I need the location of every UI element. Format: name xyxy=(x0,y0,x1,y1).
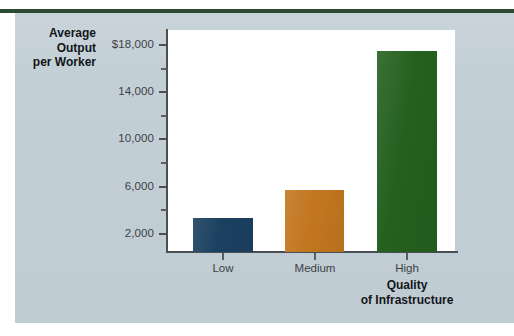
x-category-label-low: Low xyxy=(183,262,263,274)
y-axis-title-line-2: Output xyxy=(18,41,96,56)
bar-high xyxy=(377,51,437,252)
y-tick-label-group: $18,000 14,000 10,000 6,000 2,000 xyxy=(96,0,154,336)
y-axis-title: Average Output per Worker xyxy=(18,26,96,70)
y-tick-label-18000: $18,000 xyxy=(96,38,154,50)
y-tick-10000 xyxy=(159,138,167,140)
y-axis-title-line-3: per Worker xyxy=(18,55,96,70)
bar-low-shading xyxy=(193,218,253,252)
x-axis-title: Quality of Infrastructure xyxy=(327,278,487,307)
x-category-label-high: High xyxy=(367,262,447,274)
y-tick-label-14000: 14,000 xyxy=(96,85,154,97)
y-minor-tick-12000 xyxy=(161,115,167,117)
chart-figure: Average Output per Worker $18,000 14,000… xyxy=(0,0,514,336)
y-minor-tick-4000 xyxy=(161,209,167,211)
bar-medium-shading xyxy=(285,190,344,252)
y-tick-18000 xyxy=(159,44,167,46)
x-axis-title-line-1: Quality xyxy=(327,278,487,293)
x-category-label-medium: Medium xyxy=(275,262,355,274)
x-axis-title-line-2: of Infrastructure xyxy=(327,293,487,308)
y-tick-label-10000: 10,000 xyxy=(96,132,154,144)
y-tick-label-2000: 2,000 xyxy=(96,227,154,239)
y-minor-tick-8000 xyxy=(161,162,167,164)
x-tick-low xyxy=(222,253,224,260)
y-tick-label-6000: 6,000 xyxy=(96,180,154,192)
y-axis-title-line-1: Average xyxy=(18,26,96,41)
bar-high-shading xyxy=(377,51,437,252)
x-tick-medium xyxy=(314,253,316,260)
bar-medium xyxy=(285,190,344,252)
x-tick-high xyxy=(406,253,408,260)
y-tick-6000 xyxy=(159,186,167,188)
y-tick-2000 xyxy=(159,233,167,235)
y-axis-line xyxy=(166,29,168,253)
y-tick-14000 xyxy=(159,91,167,93)
bar-low xyxy=(193,218,253,252)
y-minor-tick-16000 xyxy=(161,68,167,70)
